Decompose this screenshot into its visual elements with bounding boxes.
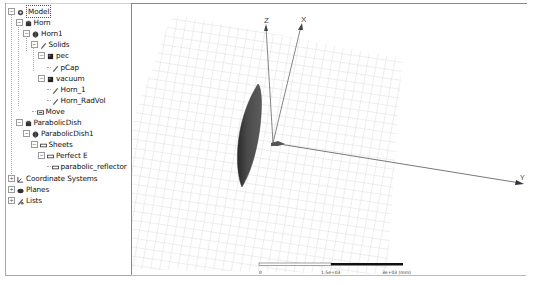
collapse-toggle-icon[interactable]: − [16, 119, 23, 126]
tree-node-label: Horn [34, 17, 51, 28]
part-icon [32, 130, 39, 137]
tree-node-label: Horn_RadVol [61, 95, 106, 106]
material-icon [47, 52, 54, 59]
solid-icon [52, 86, 59, 93]
tree-node-label: Lists [26, 195, 42, 206]
solid-icon [52, 64, 59, 71]
tree-node-label: Model [26, 5, 51, 18]
tree-connector [47, 100, 51, 101]
collapse-toggle-icon[interactable]: − [38, 152, 45, 159]
expand-toggle-icon[interactable]: + [8, 197, 15, 204]
tree-node-label: parabolic_reflector [61, 161, 127, 172]
tree-node-label: Coordinate Systems [26, 173, 98, 184]
scale-bar [259, 263, 403, 266]
tree-node-parabolic_reflector[interactable]: parabolic_reflector [53, 161, 127, 172]
tree-connector-line [11, 14, 12, 176]
tree-node-horn_1[interactable]: Horn_1 [53, 84, 86, 95]
tree-node-horn_radvol[interactable]: Horn_RadVol [53, 95, 106, 106]
tree-node-label: Move [46, 106, 65, 117]
expand-toggle-icon[interactable]: + [8, 186, 15, 193]
collapse-toggle-icon[interactable]: − [31, 41, 38, 48]
model-icon [17, 8, 24, 15]
scene-canvas[interactable]: Z X Y [132, 4, 527, 276]
tree-connector-line [26, 36, 27, 51]
part-icon [32, 30, 39, 37]
tree-node-label: pec [56, 50, 69, 61]
part-group-icon [25, 19, 32, 26]
panel-top-border [6, 3, 131, 4]
tree-node-parabolicdish1[interactable]: −ParabolicDish1 [23, 128, 94, 139]
tree-node-horn1[interactable]: −Horn1 [23, 28, 63, 39]
axis-x-label: X [301, 15, 307, 24]
tree-connector-line [33, 47, 34, 71]
tree-node-pec[interactable]: −pec [38, 50, 69, 61]
tree-node-label: vacuum [56, 73, 85, 84]
sheet-icon [52, 163, 59, 170]
tree-node-label: Perfect E [56, 150, 88, 161]
collapse-toggle-icon[interactable]: − [23, 130, 30, 137]
tree-node-label: Horn_1 [61, 84, 86, 95]
tree-connector [32, 111, 36, 112]
tree-node-label: Horn1 [41, 28, 63, 39]
tree-node-parabolicdish[interactable]: −ParabolicDish [16, 117, 82, 128]
axis-y-label: Y [520, 174, 525, 181]
tree-node-sheets[interactable]: −Sheets [31, 139, 73, 150]
collapse-toggle-icon[interactable]: − [16, 19, 23, 26]
tree-connector [47, 89, 51, 90]
tree-node-planes[interactable]: +Planes [8, 184, 49, 195]
tree-connector [47, 67, 51, 68]
tree-node-coord[interactable]: +Coordinate Systems [8, 173, 98, 184]
solid-icon [52, 97, 59, 104]
sheet-icon [47, 152, 54, 159]
tree-connector-line [18, 25, 19, 106]
part-group-icon [25, 119, 32, 126]
tree-node-label: Planes [26, 184, 49, 195]
ground-grid [132, 4, 513, 276]
list-icon [17, 197, 24, 204]
tree-node-label: ParabolicDish1 [41, 128, 94, 139]
viewport-bottom-border [131, 275, 526, 276]
model-tree-panel: −Model−Horn−Horn1−Solids−pecpCap−vacuumH… [5, 3, 132, 276]
tree-connector [47, 166, 51, 167]
coordinate-icon [17, 175, 24, 182]
collapse-toggle-icon[interactable]: − [38, 52, 45, 59]
tree-node-vacuum[interactable]: −vacuum [38, 73, 85, 84]
collapse-toggle-icon[interactable]: − [31, 141, 38, 148]
tree-node-label: pCap [61, 62, 79, 73]
solid-icon [40, 41, 47, 48]
tree-node-model[interactable]: −Model [8, 6, 51, 17]
tree-node-move[interactable]: Move [38, 106, 65, 117]
tree-node-pcap[interactable]: pCap [53, 62, 79, 73]
tree-node-solids[interactable]: −Solids [31, 39, 70, 50]
3d-viewport[interactable]: Z X Y 0 1.5e+03 3e+03 (mm) [131, 3, 527, 276]
tree-node-perfecte[interactable]: −Perfect E [38, 150, 88, 161]
tree-node-label: ParabolicDish [34, 117, 82, 128]
axis-z-label: Z [264, 16, 269, 25]
tree-node-horn[interactable]: −Horn [16, 17, 51, 28]
collapse-toggle-icon[interactable]: − [38, 75, 45, 82]
plane-icon [17, 186, 24, 193]
tree-node-label: Solids [49, 39, 70, 50]
sheet-icon [40, 141, 47, 148]
move-icon [37, 108, 44, 115]
tree-node-label: Sheets [49, 139, 73, 150]
material-icon [47, 75, 54, 82]
tree-node-lists[interactable]: +Lists [8, 195, 42, 206]
